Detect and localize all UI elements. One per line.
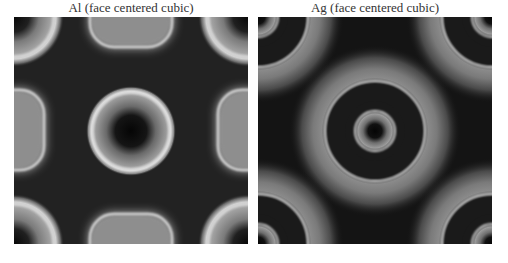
panel-title-ag: Ag (face centered cubic) (258, 0, 492, 16)
ag-density-map (258, 17, 492, 244)
panel-title-al: Al (face centered cubic) (14, 0, 248, 16)
al-density-map (14, 17, 248, 244)
